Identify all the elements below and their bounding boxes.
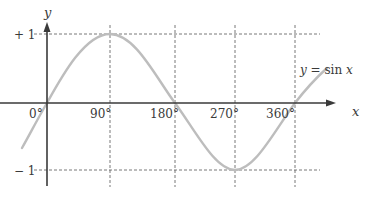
sine-chart: y x + 1 − 1 0° 90° 180° 270° 360° y = si… xyxy=(0,0,370,202)
y-tick-plus-one: + 1 xyxy=(14,28,36,42)
curve-label-x: x xyxy=(346,63,353,77)
y-axis-arrow-icon xyxy=(44,22,51,32)
x-tick-180: 180° xyxy=(150,107,179,121)
x-tick-360: 360° xyxy=(266,107,295,121)
y-axis-label: y xyxy=(43,5,52,20)
curve-label-eq: = sin xyxy=(307,63,346,77)
x-tick-0: 0° xyxy=(29,107,43,121)
y-tick-minus-one: − 1 xyxy=(14,164,36,178)
sine-curve xyxy=(22,34,327,170)
x-tick-90: 90° xyxy=(90,107,111,121)
x-tick-270: 270° xyxy=(210,107,239,121)
x-axis-arrow-icon xyxy=(326,100,336,107)
curve-label: y = sin x xyxy=(299,63,353,77)
x-axis-label: x xyxy=(352,104,360,119)
